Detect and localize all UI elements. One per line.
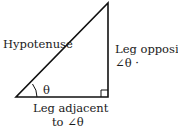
leg-opposite-label-line2: ∠θ · xyxy=(115,56,139,70)
angle-theta-label: θ xyxy=(43,83,50,97)
right-triangle-diagram: θ Hypotenuse Leg opposite ∠θ · Leg adjac… xyxy=(0,0,178,130)
right-angle-marker xyxy=(101,90,108,97)
hypotenuse-label: Hypotenuse xyxy=(3,37,73,51)
leg-opposite-label-line1: Leg opposite xyxy=(115,42,178,56)
leg-adjacent-label-line2: to ∠θ xyxy=(52,115,84,129)
angle-arc xyxy=(33,84,38,97)
leg-adjacent-label-line1: Leg adjacent xyxy=(33,101,109,115)
